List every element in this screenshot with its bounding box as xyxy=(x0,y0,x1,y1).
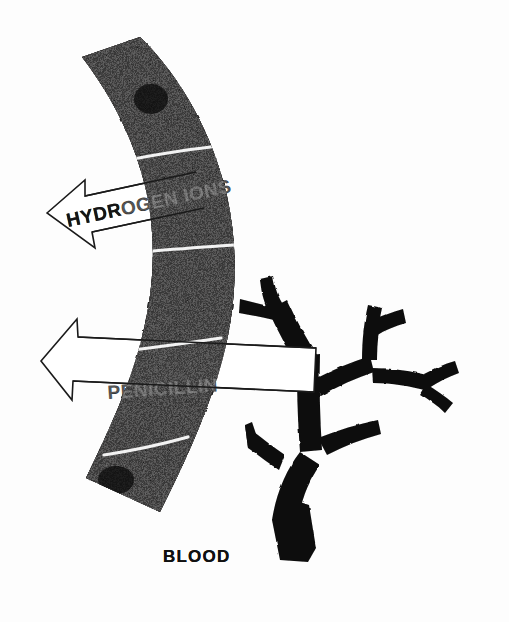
diagram-canvas: HYDROGEN IONS PENICILLIN BLOOD HYDROGEN … xyxy=(0,0,509,622)
blood-vessel-tree xyxy=(239,276,459,562)
vessel-branch-far-right-b xyxy=(420,384,453,413)
vessel-branch-far-right-a xyxy=(424,361,459,388)
membrane-overlay xyxy=(70,30,250,530)
scientific-diagram-figure: HYDROGEN IONS PENICILLIN BLOOD HYDROGEN … xyxy=(0,0,509,622)
vessel-branch-right-low xyxy=(318,420,381,455)
blood-caption-front: BLOOD xyxy=(163,547,230,566)
vessel-branch-right-mid xyxy=(313,356,374,396)
vessel-branch-far-right xyxy=(372,368,431,391)
